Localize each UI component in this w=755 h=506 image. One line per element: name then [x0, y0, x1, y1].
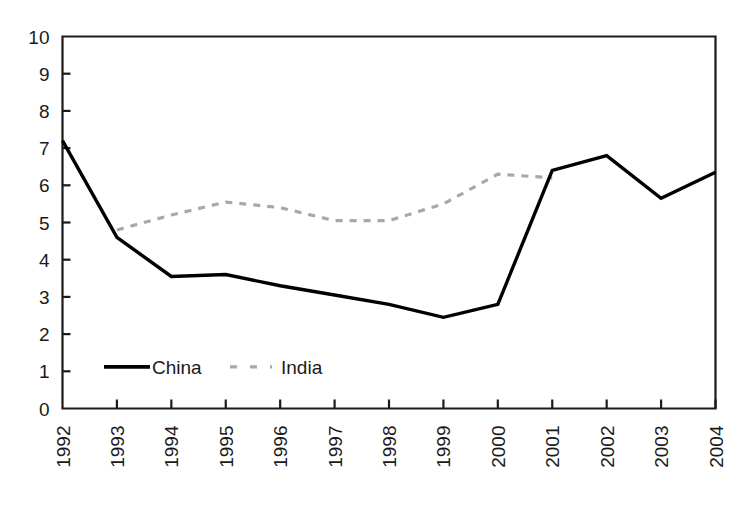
y-axis-tick-label: 9	[39, 64, 50, 85]
y-axis-tick-label: 4	[39, 250, 50, 271]
x-axis-tick-label: 2001	[542, 426, 563, 468]
x-axis-tick-label: 1994	[161, 425, 182, 468]
line-chart: 012345678910 199219931994199519961997199…	[0, 0, 755, 506]
y-axis-tick-label: 5	[39, 213, 50, 234]
y-axis-tick-label: 6	[39, 175, 50, 196]
y-axis-tick-label: 10	[28, 27, 49, 48]
x-axis-tick-label: 1999	[433, 426, 454, 468]
x-axis-tick-label: 1998	[379, 426, 400, 468]
chart-figure: 012345678910 199219931994199519961997199…	[0, 0, 755, 506]
y-axis-tick-label: 1	[39, 361, 50, 382]
x-axis-tick-label: 2000	[488, 426, 509, 468]
y-axis-tick-label: 3	[39, 287, 50, 308]
x-axis-tick-label: 1997	[325, 426, 346, 468]
x-axis-tick-label: 1996	[270, 426, 291, 468]
y-axis-tick-label: 0	[39, 399, 50, 420]
y-axis-tick-label: 7	[39, 138, 50, 159]
legend-label-india: India	[281, 357, 323, 378]
legend-label-china: China	[152, 357, 202, 378]
x-axis-tick-label: 2004	[706, 425, 727, 468]
y-axis-tick-label: 8	[39, 101, 50, 122]
x-axis-tick-label: 1992	[53, 426, 74, 468]
y-axis-tick-label: 2	[39, 324, 50, 345]
x-axis-tick-label: 1993	[107, 426, 128, 468]
x-axis-tick-label: 2002	[597, 426, 618, 468]
x-axis-tick-label: 1995	[216, 426, 237, 468]
x-axis-tick-label: 2003	[651, 426, 672, 468]
